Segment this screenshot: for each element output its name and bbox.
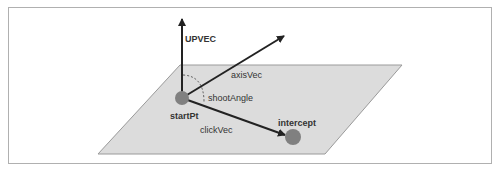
click-vector-label: clickVec <box>200 125 233 135</box>
start-point <box>175 91 189 105</box>
axis-vector-label: axisVec <box>231 70 263 80</box>
up-vector-label: UPVEC <box>185 34 217 44</box>
intercept-label: intercept <box>278 118 316 128</box>
vector-diagram: UPVEC axisVec shootAngle startPt clickVe… <box>0 0 501 170</box>
start-point-label: startPt <box>170 111 199 121</box>
intercept-point <box>285 129 301 145</box>
shoot-angle-label: shootAngle <box>208 93 253 103</box>
